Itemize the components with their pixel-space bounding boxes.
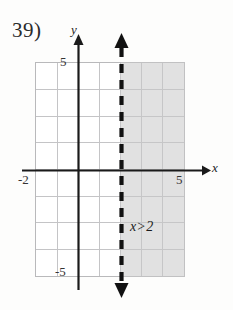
y-axis-label: y xyxy=(71,22,77,38)
y-axis-tick-bottom: -5 xyxy=(55,264,66,280)
arrow-right-icon xyxy=(202,166,211,176)
axis-overlay xyxy=(0,0,233,310)
x-axis-label: x xyxy=(212,160,218,176)
inequality-value: 2 xyxy=(146,219,153,234)
inequality-operator: > xyxy=(136,219,146,234)
inequality-annotation: x>2 xyxy=(130,219,153,235)
boundary-arrow-up-icon xyxy=(115,33,129,48)
x-axis-tick-right: 5 xyxy=(176,172,183,188)
y-axis-tick-top: 5 xyxy=(60,54,67,70)
x-axis-tick-left: -2 xyxy=(18,172,29,188)
boundary-arrow-down-icon xyxy=(115,283,129,298)
graph-figure: 39) xyxy=(0,0,233,310)
